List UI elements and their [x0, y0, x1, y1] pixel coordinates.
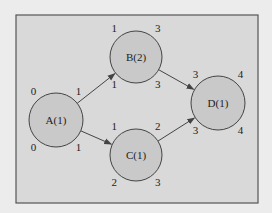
early-start-value: 3: [193, 68, 199, 80]
late-finish-value: 4: [238, 124, 244, 136]
early-finish-value: 4: [238, 68, 244, 80]
late-finish-value: 3: [155, 176, 161, 188]
early-start-value: 0: [31, 85, 37, 97]
late-start-value: 0: [31, 141, 37, 153]
early-finish-value: 3: [155, 22, 161, 34]
node-label: D(1): [208, 97, 229, 110]
node-label: C(1): [126, 149, 147, 162]
early-start-value: 1: [112, 22, 118, 34]
early-start-value: 1: [112, 120, 118, 132]
late-start-value: 1: [112, 78, 118, 90]
late-start-value: 3: [193, 124, 199, 136]
late-finish-value: 3: [155, 78, 161, 90]
late-start-value: 2: [112, 176, 118, 188]
node-label: B(2): [126, 51, 147, 64]
diagram-svg: A(1)0101B(2)1313C(1)1223D(1)3434: [0, 0, 272, 213]
node-label: A(1): [46, 114, 67, 127]
early-finish-value: 1: [76, 85, 82, 97]
early-finish-value: 2: [155, 120, 161, 132]
late-finish-value: 1: [76, 141, 82, 153]
network-diagram: A(1)0101B(2)1313C(1)1223D(1)3434: [0, 0, 272, 213]
